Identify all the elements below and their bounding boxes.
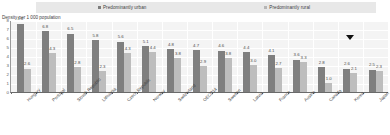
bar-rural: 1.0: [325, 83, 332, 92]
bar-group: 4.43.0: [237, 21, 262, 92]
legend-swatch-urban-icon: [98, 6, 101, 9]
vertical-gridline: [237, 21, 238, 92]
bar-rural: 3.3: [300, 62, 307, 92]
bar-rural: 3.0: [250, 65, 257, 92]
vertical-gridline: [338, 21, 339, 92]
bar-value-label: 4.1: [268, 49, 274, 53]
y-axis-tick-label: 7: [7, 28, 9, 32]
vertical-gridline: [36, 21, 37, 92]
bar-value-label: 2.3: [376, 65, 382, 69]
bar-rural: 2.9: [200, 66, 207, 92]
bar-value-label: 3.0: [250, 59, 256, 63]
bar-group: 2.52.3: [363, 21, 388, 92]
bar-value-label: 2.6: [344, 62, 350, 66]
chart-container: Predominantly urban Predominantly rural …: [0, 0, 390, 135]
bar-rural: 4.3: [49, 53, 56, 92]
legend-swatch-rural-icon: [264, 6, 267, 9]
bar-group: 4.83.8: [162, 21, 187, 92]
bar-urban: 3.6: [293, 60, 300, 92]
vertical-gridline: [313, 21, 314, 92]
bar-value-label: 4.3: [49, 47, 55, 51]
bar-urban: 2.6: [343, 69, 350, 92]
bar-urban: 6.8: [42, 31, 49, 92]
bar-rural: 4.4: [149, 52, 156, 92]
bar-rural: 2.8: [74, 67, 81, 92]
bar-value-label: 2.1: [351, 67, 357, 71]
bar-value-label: 4.6: [218, 44, 224, 48]
y-axis-tick-label: 1: [7, 82, 9, 86]
bar-group: 7.62.6: [11, 21, 36, 92]
bar-rural: 2.3: [376, 71, 383, 92]
bar-value-label: 4.4: [150, 46, 156, 50]
bar-group: 6.52.8: [61, 21, 86, 92]
bar-value-label: 2.6: [24, 62, 30, 66]
bar-value-label: 3.6: [294, 53, 300, 57]
bar-urban: 4.1: [268, 55, 275, 92]
y-axis-tick-label: 8: [7, 19, 9, 23]
vertical-gridline: [112, 21, 113, 92]
vertical-gridline: [187, 21, 188, 92]
bar-group: 2.81.0: [313, 21, 338, 92]
bar-value-label: 3.3: [301, 56, 307, 60]
bar-urban: 4.6: [218, 51, 225, 92]
y-axis-tick-label: 6: [7, 37, 9, 41]
bar-value-label: 2.3: [99, 65, 105, 69]
vertical-gridline: [262, 21, 263, 92]
x-axis-tick: [11, 92, 12, 94]
bar-value-label: 5.1: [143, 40, 149, 44]
vertical-gridline: [212, 21, 213, 92]
bar-group: 2.62.1: [338, 21, 363, 92]
legend-item-rural: Predominantly rural: [264, 5, 310, 10]
legend-label-rural: Predominantly rural: [269, 5, 310, 10]
y-axis-tick-label: 3: [7, 64, 9, 68]
bar-value-label: 6.8: [42, 25, 48, 29]
y-axis-tick-label: 0: [7, 91, 9, 95]
plot-canvas: 7.62.66.84.36.52.85.82.35.64.35.14.44.83…: [10, 21, 388, 93]
bar-value-label: 3.8: [225, 52, 231, 56]
bar-value-label: 4.8: [168, 43, 174, 47]
bar-urban: 7.6: [17, 24, 24, 92]
bar-urban: 4.4: [243, 52, 250, 92]
bar-rural: 4.3: [124, 53, 131, 92]
bar-value-label: 6.5: [67, 27, 73, 31]
y-axis-tick-label: 5: [7, 46, 9, 50]
bar-urban: 2.5: [369, 70, 376, 93]
y-axis-ticks: 012345678: [2, 21, 10, 93]
chart-legend: Predominantly urban Predominantly rural: [36, 2, 376, 13]
y-axis-title: Density per 1 000 population: [2, 15, 60, 20]
bar-rural: 3.8: [225, 58, 232, 92]
vertical-gridline: [288, 21, 289, 92]
bar-group: 6.84.3: [36, 21, 61, 92]
bar-value-label: 3.8: [175, 52, 181, 56]
bar-value-label: 2.9: [200, 60, 206, 64]
bar-value-label: 4.4: [243, 46, 249, 50]
bar-groups: 7.62.66.84.36.52.85.82.35.64.35.14.44.83…: [11, 21, 388, 92]
bar-rural: 2.7: [275, 68, 282, 92]
x-axis-category-labels: HungaryPortugalSlovak RepublicLithuaniaC…: [10, 99, 390, 135]
bar-group: 5.64.3: [112, 21, 137, 92]
bar-group: 4.72.9: [187, 21, 212, 92]
bar-value-label: 5.8: [92, 34, 98, 38]
vertical-gridline: [61, 21, 62, 92]
vertical-gridline: [86, 21, 87, 92]
bar-value-label: 2.5: [369, 63, 375, 67]
vertical-gridline: [162, 21, 163, 92]
bar-urban: 5.6: [117, 42, 124, 92]
vertical-gridline: [137, 21, 138, 92]
bar-value-label: 7.6: [17, 17, 23, 21]
legend-item-urban: Predominantly urban: [98, 5, 146, 10]
bar-group: 4.63.8: [212, 21, 237, 92]
bar-value-label: 2.8: [74, 61, 80, 65]
bar-value-label: 1.0: [326, 77, 332, 81]
bar-value-label: 4.7: [193, 44, 199, 48]
y-axis-tick-label: 2: [7, 73, 9, 77]
y-axis-tick-label: 4: [7, 55, 9, 59]
triangle-marker-icon: [346, 35, 354, 40]
bar-rural: 3.8: [174, 58, 181, 92]
bar-group: 4.12.7: [262, 21, 287, 92]
bar-rural: 2.6: [24, 69, 31, 92]
bar-value-label: 2.7: [275, 62, 281, 66]
legend-label-urban: Predominantly urban: [103, 5, 146, 10]
bar-value-label: 2.8: [319, 61, 325, 65]
bar-value-label: 5.6: [118, 35, 124, 39]
